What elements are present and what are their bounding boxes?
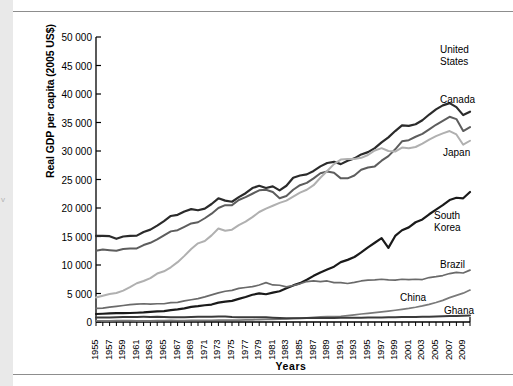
gdp-per-capita-line-chart: Real GDP per capita (2005 US$) Years 05 … <box>0 0 513 386</box>
series-label-south-korea: South Korea <box>434 210 461 233</box>
series-label-china: China <box>400 292 426 304</box>
series-line-ghana <box>96 316 470 319</box>
series-line-united-states <box>96 103 470 239</box>
series-line-canada <box>96 117 470 251</box>
series-label-canada: Canada <box>440 94 475 106</box>
series-line-japan <box>96 131 470 297</box>
series-label-brazil: Brazil <box>440 259 465 271</box>
series-label-ghana: Ghana <box>444 305 474 317</box>
series-label-united-states: United States <box>440 44 469 67</box>
series-label-japan: Japan <box>443 147 470 159</box>
plot-area <box>0 0 513 386</box>
figure-page: v Real GDP per capita (2005 US$) Years 0… <box>0 0 513 386</box>
